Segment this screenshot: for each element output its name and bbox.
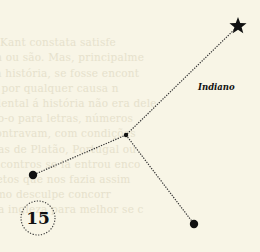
constellation-diagram: 15 Indiano: [0, 0, 260, 252]
constellation-link-top-star-junction: [126, 26, 238, 135]
book-page: rbimentoe Um verdadeiro Kant constata sa…: [0, 0, 260, 252]
constellation-links: [33, 26, 238, 224]
constellation-link-junction-left-star: [33, 135, 126, 175]
junction-dot: [124, 133, 128, 137]
bottom-star-dot: [190, 220, 198, 228]
constellation-stars: [29, 17, 247, 228]
constellation-name: Indiano: [197, 82, 235, 92]
left-star-dot: [29, 171, 37, 179]
constellation-link-junction-bottom-star: [126, 135, 194, 224]
page-number: 15: [26, 208, 50, 228]
star-icon: [229, 17, 246, 33]
